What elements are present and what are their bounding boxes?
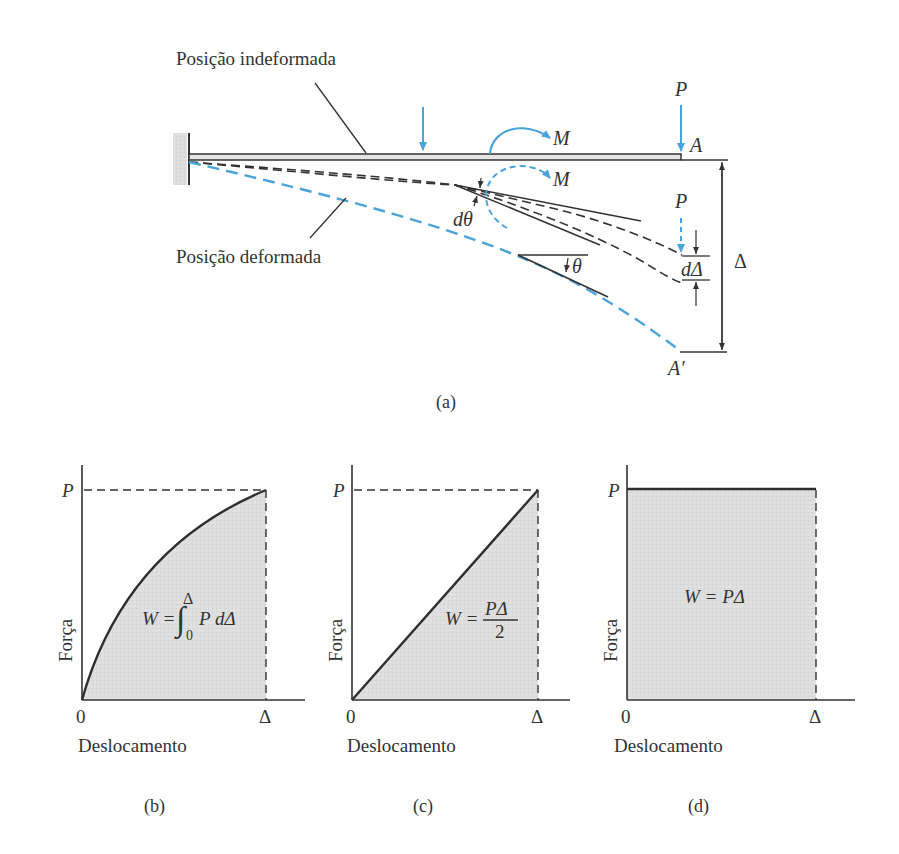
work-area-b <box>82 490 266 700</box>
label-moment-M-deformed: M <box>552 168 571 190</box>
ytick-P-b: P <box>61 480 74 501</box>
label-deformed: Posição deformada <box>176 246 322 267</box>
svg-text:Δ: Δ <box>183 590 193 607</box>
label-d-theta: dθ <box>453 208 473 230</box>
figure-canvas: Posição indeformada Posição deformada θ … <box>0 0 899 854</box>
label-delta-total: Δ <box>734 250 747 272</box>
label-load-P-deformed: P <box>674 190 687 212</box>
caption-c: (c) <box>413 796 433 817</box>
ylabel-c: Força <box>325 618 346 662</box>
deflected-curve-upper <box>189 162 682 255</box>
caption-b: (b) <box>144 796 165 817</box>
label-point-A: A <box>688 134 703 156</box>
xtick-delta-d: Δ <box>809 706 821 727</box>
svg-text:W =: W = <box>142 608 175 629</box>
moment-arrow-M <box>490 128 550 154</box>
xtick-0-c: 0 <box>346 706 356 727</box>
label-load-P: P <box>674 78 687 100</box>
svg-text:2: 2 <box>495 621 505 642</box>
leader-undeformed <box>315 83 366 153</box>
xtick-0-d: 0 <box>621 706 631 727</box>
svg-text:PΔ: PΔ <box>484 598 508 619</box>
xlabel-c: Deslocamento <box>347 735 456 756</box>
ylabel-b: Força <box>55 618 76 662</box>
xlabel-b: Deslocamento <box>78 735 187 756</box>
panel-b-chart: P 0 Δ Deslocamento Força W = ∫ Δ 0 P dΔ … <box>55 465 305 817</box>
label-point-A-prime: A′ <box>666 357 685 379</box>
formula-d: W = PΔ <box>684 586 745 607</box>
ytick-P-d: P <box>607 480 620 501</box>
panel-a-beam-diagram: Posição indeformada Posição deformada θ … <box>173 48 747 413</box>
xtick-delta-b: Δ <box>259 706 271 727</box>
fixed-wall-support <box>173 133 187 185</box>
caption-d: (d) <box>688 796 709 817</box>
svg-text:W =: W = <box>445 608 478 629</box>
panel-d-chart: P 0 Δ Deslocamento Força W = PΔ (d) <box>600 465 855 817</box>
ylabel-d: Força <box>600 618 621 662</box>
ytick-P-c: P <box>332 480 345 501</box>
label-theta: θ <box>572 255 582 277</box>
leader-deformed <box>310 198 346 238</box>
label-d-delta: dΔ <box>681 258 703 280</box>
xlabel-d: Deslocamento <box>614 735 723 756</box>
label-moment-M: M <box>552 127 571 149</box>
theta-tangent <box>518 255 608 297</box>
panel-c-chart: P 0 Δ Deslocamento Força W = PΔ 2 (c) <box>325 465 570 817</box>
label-undeformed: Posição indeformada <box>176 48 336 69</box>
xtick-delta-c: Δ <box>531 706 543 727</box>
svg-text:0: 0 <box>186 628 193 643</box>
caption-a: (a) <box>436 392 456 413</box>
tangent-line-1 <box>455 185 641 221</box>
svg-text:P dΔ: P dΔ <box>198 608 236 629</box>
undeformed-beam <box>189 154 681 160</box>
xtick-0-b: 0 <box>76 706 86 727</box>
